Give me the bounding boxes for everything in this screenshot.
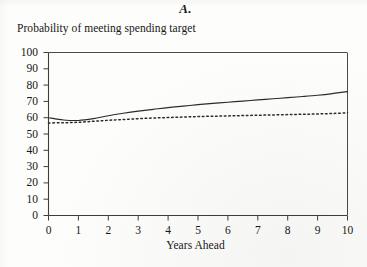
x-tick-label-7: 7 bbox=[247, 225, 269, 237]
x-axis-title: Years Ahead bbox=[0, 239, 367, 251]
series-line-dotted bbox=[49, 113, 348, 123]
y-axis-ticks bbox=[44, 53, 49, 216]
x-tick-label-9: 9 bbox=[307, 225, 329, 237]
x-tick-label-6: 6 bbox=[217, 225, 239, 237]
x-tick-label-1: 1 bbox=[67, 225, 89, 237]
y-tick-label-70: 70 bbox=[12, 96, 38, 108]
y-tick-label-30: 30 bbox=[12, 161, 38, 173]
y-tick-label-40: 40 bbox=[12, 145, 38, 157]
figure-panel: A. Probability of meeting spending targe… bbox=[0, 0, 367, 267]
x-tick-label-2: 2 bbox=[97, 225, 119, 237]
y-tick-label-100: 100 bbox=[12, 47, 38, 59]
y-tick-label-20: 20 bbox=[12, 177, 38, 189]
x-tick-label-3: 3 bbox=[127, 225, 149, 237]
y-tick-label-80: 80 bbox=[12, 80, 38, 92]
y-tick-label-0: 0 bbox=[12, 210, 38, 222]
y-tick-label-60: 60 bbox=[12, 112, 38, 124]
x-axis-ticks bbox=[49, 216, 348, 221]
x-tick-label-8: 8 bbox=[277, 225, 299, 237]
series-group bbox=[49, 92, 348, 123]
y-tick-label-10: 10 bbox=[12, 194, 38, 206]
y-tick-label-90: 90 bbox=[12, 63, 38, 75]
x-tick-label-4: 4 bbox=[157, 225, 179, 237]
x-tick-label-5: 5 bbox=[187, 225, 209, 237]
plot-frame bbox=[49, 53, 348, 216]
y-tick-label-50: 50 bbox=[12, 129, 38, 141]
x-tick-label-0: 0 bbox=[38, 225, 60, 237]
x-tick-label-10: 10 bbox=[337, 225, 359, 237]
